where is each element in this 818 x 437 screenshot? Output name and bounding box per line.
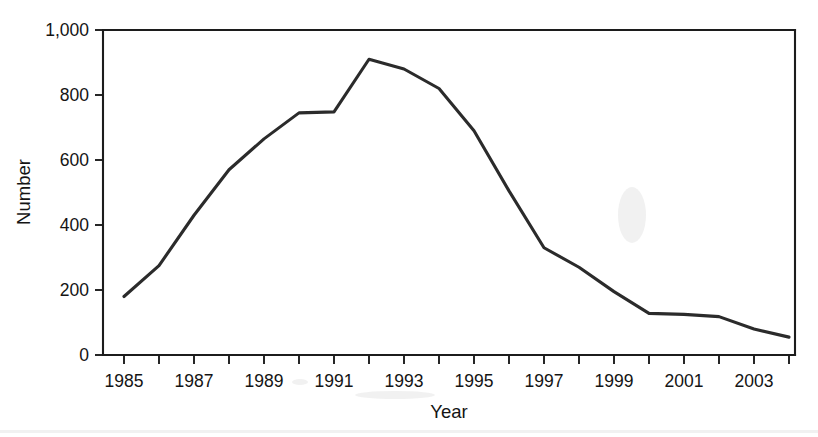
x-tick-label-1991: 1991	[315, 371, 354, 391]
scan-artifacts	[0, 187, 818, 433]
x-axis-ticks	[124, 355, 789, 364]
y-axis-tick-labels: 0 200 400 600 800 1,000	[45, 20, 89, 365]
y-tick-label-400: 400	[60, 215, 89, 235]
line-chart: 0 200 400 600 800 1,000 Number	[0, 0, 818, 437]
data-series-line	[124, 59, 789, 337]
x-axis-title: Year	[430, 401, 467, 422]
x-tick-label-2003: 2003	[735, 371, 774, 391]
y-axis-title-text: Number	[13, 159, 34, 225]
x-tick-label-2001: 2001	[665, 371, 704, 391]
x-tick-label-1997: 1997	[525, 371, 564, 391]
x-tick-label-1995: 1995	[455, 371, 494, 391]
y-tick-label-600: 600	[60, 150, 89, 170]
y-tick-label-200: 200	[60, 280, 89, 300]
x-tick-label-1993: 1993	[385, 371, 424, 391]
x-axis-tick-labels: 1985 1987 1989 1991 1993 1995 1997 1999 …	[105, 371, 774, 391]
y-tick-label-1000: 1,000	[45, 20, 89, 40]
y-tick-label-0: 0	[79, 345, 89, 365]
x-tick-label-1987: 1987	[175, 371, 214, 391]
y-axis-title: Number	[13, 159, 34, 225]
x-axis-title-text: Year	[430, 401, 467, 422]
x-tick-label-1985: 1985	[105, 371, 144, 391]
x-tick-label-1989: 1989	[245, 371, 284, 391]
x-tick-label-1999: 1999	[595, 371, 634, 391]
y-tick-label-800: 800	[60, 85, 89, 105]
y-axis-ticks	[95, 30, 103, 355]
plot-frame	[103, 30, 795, 355]
chart-figure: 0 200 400 600 800 1,000 Number	[0, 0, 818, 437]
